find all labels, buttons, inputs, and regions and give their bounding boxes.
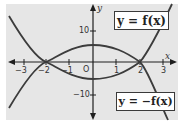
x-tick-label-3: 3 [161,67,166,75]
x-tick-label-neg2: −2 [38,67,50,75]
x-tick-label-neg1: −1 [61,67,73,75]
label-y-equals-f-of-x: y = f(x) [114,11,169,30]
x-tick-label-1: 1 [114,67,119,75]
label-y-equals-neg-f-of-x: y = −f(x) [116,92,175,111]
origin-label: O [83,66,89,74]
y-tick-label-10: 10 [79,27,89,35]
y-axis-label: y [97,4,102,13]
x-tick-label-2: 2 [138,67,143,75]
x-axis-label: x [165,52,170,61]
x-tick-label-neg3: −3 [15,67,27,75]
y-tick-label-neg10: −10 [73,91,90,99]
